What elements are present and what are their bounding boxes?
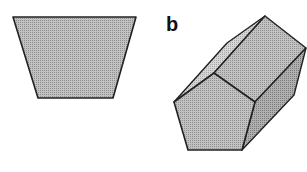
trapezoid-shape — [13, 17, 136, 98]
figure-canvas — [0, 0, 307, 172]
panel-b-label: b — [166, 14, 178, 34]
pentagonal-prism-shape — [174, 16, 306, 150]
